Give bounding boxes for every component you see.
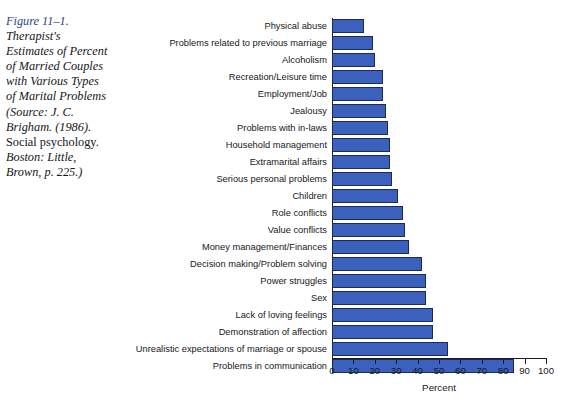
- bar: [332, 206, 403, 220]
- bar-row: Money management/Finances: [332, 239, 546, 256]
- x-axis-tick: [546, 359, 547, 364]
- bar-row: Household management: [332, 137, 546, 154]
- bar-series: Physical abuseProblems related to previo…: [332, 18, 546, 358]
- bar-row: Demonstration of affection: [332, 324, 546, 341]
- bar-row: Alcoholism: [332, 52, 546, 69]
- x-axis-tick-label: 30: [391, 365, 402, 377]
- figure-number: Figure 11–1.: [6, 14, 69, 28]
- category-label: Children: [292, 188, 327, 204]
- category-label: Recreation/Leisure time: [229, 69, 327, 85]
- category-label: Alcoholism: [282, 52, 327, 68]
- x-axis-tick: [482, 359, 483, 364]
- bar-row: Serious personal problems: [332, 171, 546, 188]
- bar-row: Problems with in-laws: [332, 120, 546, 137]
- x-axis-tick-label: 60: [455, 365, 466, 377]
- bar: [332, 257, 422, 271]
- x-axis-tick-label: 70: [476, 365, 487, 377]
- x-axis-tick: [503, 359, 504, 364]
- category-label: Sex: [311, 290, 327, 306]
- caption-line-6: Brigham. (1986).: [6, 120, 91, 134]
- figure-caption: Figure 11–1. Therapist's Estimates of Pe…: [6, 14, 124, 180]
- x-axis-tick: [375, 359, 376, 364]
- bar-row: Role conflicts: [332, 205, 546, 222]
- category-label: Employment/Job: [258, 86, 327, 102]
- bar-row: Children: [332, 188, 546, 205]
- bar-row: Lack of loving feelings: [332, 307, 546, 324]
- x-axis-tick: [418, 359, 419, 364]
- bar: [332, 121, 388, 135]
- x-axis-tick: [439, 359, 440, 364]
- bar-row: Sex: [332, 290, 546, 307]
- bar-row: Power struggles: [332, 273, 546, 290]
- caption-line-9: Brown, p. 225.): [6, 165, 82, 179]
- bar: [332, 19, 364, 33]
- plot-area: Physical abuseProblems related to previo…: [332, 18, 546, 358]
- category-label: Money management/Finances: [202, 239, 327, 255]
- caption-line-8: Boston: Little,: [6, 150, 76, 164]
- x-axis-title: Percent: [332, 382, 546, 393]
- caption-line-3: with Various Types: [6, 74, 99, 88]
- category-label: Extramarital affairs: [250, 154, 327, 170]
- x-axis-tick-label: 40: [412, 365, 423, 377]
- category-label: Unrealistic expectations of marriage or …: [136, 341, 327, 357]
- x-axis-tick: [525, 359, 526, 364]
- x-axis-tick: [396, 359, 397, 364]
- x-axis-tick-label: 10: [348, 365, 359, 377]
- bar-row: Extramarital affairs: [332, 154, 546, 171]
- bar: [332, 104, 386, 118]
- category-label: Problems in communication: [213, 358, 327, 374]
- bar: [332, 138, 390, 152]
- x-axis-tick-label: 90: [519, 365, 530, 377]
- bar-row: Jealousy: [332, 103, 546, 120]
- bar-row: Physical abuse: [332, 18, 546, 35]
- caption-line-7: Social psychology.: [6, 135, 99, 149]
- x-axis-tick-label: 80: [498, 365, 509, 377]
- x-axis-tick-label: 20: [369, 365, 380, 377]
- bar-row: Problems related to previous marriage: [332, 35, 546, 52]
- bar-row: Value conflicts: [332, 222, 546, 239]
- bar-row: Recreation/Leisure time: [332, 69, 546, 86]
- category-label: Problems with in-laws: [237, 120, 327, 136]
- bar: [332, 274, 426, 288]
- category-label: Jealousy: [290, 103, 327, 119]
- category-label: Physical abuse: [264, 18, 327, 34]
- category-label: Problems related to previous marriage: [169, 35, 327, 51]
- bar: [332, 308, 433, 322]
- bar: [332, 70, 383, 84]
- x-axis-tick-label: 100: [538, 365, 554, 377]
- caption-line-1: Estimates of Percent: [6, 44, 107, 58]
- bar-row: Unrealistic expectations of marriage or …: [332, 341, 546, 358]
- bar: [332, 240, 409, 254]
- x-axis-tick: [460, 359, 461, 364]
- caption-line-0: Therapist's: [6, 29, 61, 43]
- x-axis-tick-label: 0: [329, 365, 334, 377]
- category-label: Serious personal problems: [216, 171, 327, 187]
- caption-line-5: (Source: J. C.: [6, 105, 74, 119]
- bar: [332, 172, 392, 186]
- category-label: Household management: [226, 137, 327, 153]
- x-axis-tick: [353, 359, 354, 364]
- category-label: Decision making/Problem solving: [190, 256, 327, 272]
- x-axis-tick-label: 50: [434, 365, 445, 377]
- caption-line-4: of Marital Problems: [6, 89, 106, 103]
- category-label: Role conflicts: [272, 205, 327, 221]
- category-label: Lack of loving feelings: [236, 307, 327, 323]
- bar: [332, 342, 448, 356]
- caption-line-2: of Married Couples: [6, 59, 103, 73]
- bar: [332, 291, 426, 305]
- bar: [332, 325, 433, 339]
- category-label: Demonstration of affection: [219, 324, 327, 340]
- bar-row: Employment/Job: [332, 86, 546, 103]
- bar: [332, 189, 398, 203]
- bar: [332, 155, 390, 169]
- category-label: Value conflicts: [268, 222, 327, 238]
- category-label: Power struggles: [260, 273, 327, 289]
- bar: [332, 87, 383, 101]
- bar: [332, 223, 405, 237]
- bar: [332, 53, 375, 67]
- bar: [332, 36, 373, 50]
- x-axis-tick: [332, 359, 333, 364]
- bar-row: Decision making/Problem solving: [332, 256, 546, 273]
- bar-chart: Physical abuseProblems related to previo…: [130, 14, 570, 404]
